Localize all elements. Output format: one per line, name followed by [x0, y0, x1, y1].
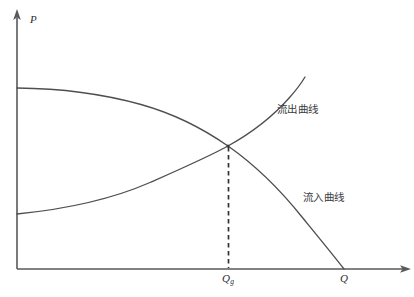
operating-point-marker [227, 145, 230, 148]
operating-point-label: Qg [222, 273, 234, 286]
inflow-curve-label: 流入曲线 [303, 192, 345, 203]
inflow-curve [17, 88, 344, 269]
operating-point-label-base: Q [222, 272, 230, 284]
pressure-axis [13, 9, 21, 269]
outflow-curve-label: 流出曲线 [277, 104, 319, 115]
plot-canvas [0, 0, 414, 297]
pressure-axis-label: P [30, 14, 37, 25]
max-flow-label: Q [340, 273, 348, 284]
outflow-curve [17, 77, 305, 214]
flow-rate-axis [17, 265, 411, 273]
inflow-outflow-diagram: P Qg Q 流出曲线 流入曲线 [0, 0, 414, 297]
operating-point-label-subscript: g [230, 277, 234, 286]
